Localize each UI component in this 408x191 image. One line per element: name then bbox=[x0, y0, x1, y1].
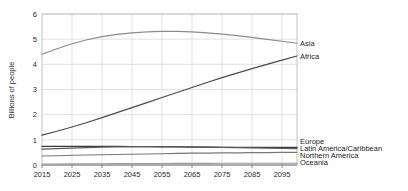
x-tick-label: 2075 bbox=[214, 170, 231, 179]
x-tick-label: 2085 bbox=[244, 170, 261, 179]
x-tick-label: 2055 bbox=[154, 170, 171, 179]
population-projection-chart: 0123456 20152025203520452055206520752085… bbox=[0, 0, 408, 191]
series-lines bbox=[42, 31, 297, 164]
y-axis-title: Billions of people bbox=[7, 62, 16, 119]
chart-canvas: 0123456 20152025203520452055206520752085… bbox=[0, 0, 408, 191]
x-axis-tick-labels: 201520252035204520552065207520852095 bbox=[34, 170, 291, 179]
y-tick-label: 2 bbox=[33, 110, 37, 119]
y-tick-label: 4 bbox=[33, 60, 37, 69]
x-tick-label: 2095 bbox=[274, 170, 291, 179]
series-labels: AsiaAfricaEuropeLatin America/CaribbeanN… bbox=[300, 39, 382, 167]
x-axis bbox=[42, 165, 297, 168]
series-line-asia bbox=[42, 31, 297, 54]
y-tick-label: 1 bbox=[33, 136, 37, 145]
y-tick-label: 3 bbox=[33, 85, 37, 94]
y-axis-tick-labels: 0123456 bbox=[33, 10, 37, 170]
series-line-africa bbox=[42, 56, 297, 135]
x-tick-label: 2035 bbox=[94, 170, 111, 179]
x-tick-label: 2045 bbox=[124, 170, 141, 179]
y-tick-label: 0 bbox=[33, 161, 37, 170]
y-tick-label: 6 bbox=[33, 10, 37, 19]
gridlines bbox=[42, 14, 297, 165]
series-line-oceania bbox=[42, 163, 297, 164]
series-label-africa: Africa bbox=[300, 52, 320, 61]
x-tick-label: 2065 bbox=[184, 170, 201, 179]
series-label-oceania: Oceania bbox=[300, 158, 329, 167]
x-tick-label: 2015 bbox=[34, 170, 51, 179]
series-label-asia: Asia bbox=[300, 39, 315, 48]
series-line-northern-america bbox=[42, 152, 297, 156]
y-tick-label: 5 bbox=[33, 35, 37, 44]
x-tick-label: 2025 bbox=[64, 170, 81, 179]
